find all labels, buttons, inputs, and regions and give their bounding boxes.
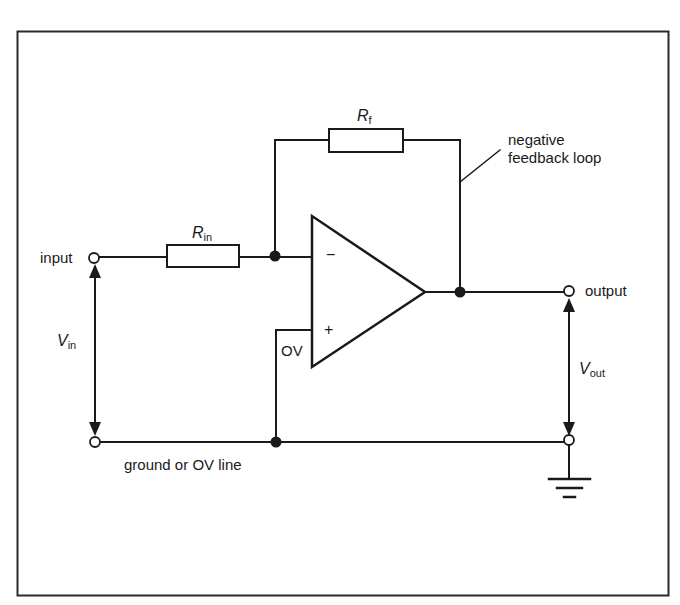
junction-ground <box>271 437 282 448</box>
label-feedback-line2: feedback loop <box>508 150 601 165</box>
terminal-ground-right <box>564 435 574 445</box>
terminal-output <box>564 286 574 296</box>
label-feedback-line1: negative <box>508 132 565 147</box>
diagram-frame <box>18 32 669 596</box>
label-vout: Vout <box>579 361 605 379</box>
vout-arrowhead-up <box>563 298 575 312</box>
label-rin: Rin <box>192 225 212 243</box>
label-input: input <box>40 250 73 265</box>
op-amp-triangle <box>312 216 425 367</box>
vin-arrowhead-down <box>89 422 101 436</box>
label-ground-line: ground or OV line <box>124 457 242 472</box>
resistor-rf <box>329 129 403 152</box>
feedback-leader-line <box>460 150 500 182</box>
label-output: output <box>585 283 627 298</box>
label-vin: Vin <box>57 333 76 351</box>
terminal-input <box>89 253 99 263</box>
circuit-diagram <box>0 0 680 605</box>
junction-inverting <box>270 251 281 262</box>
terminal-ground-left <box>90 437 100 447</box>
vin-arrowhead-up <box>89 264 101 278</box>
resistor-rin <box>167 245 239 267</box>
label-noninverting-plus: + <box>324 322 333 338</box>
label-inverting-minus: − <box>326 247 335 263</box>
label-zero-volt: OV <box>281 343 303 358</box>
vout-arrowhead-down <box>563 422 575 436</box>
junction-output <box>455 287 466 298</box>
label-rf: Rf <box>357 108 372 126</box>
